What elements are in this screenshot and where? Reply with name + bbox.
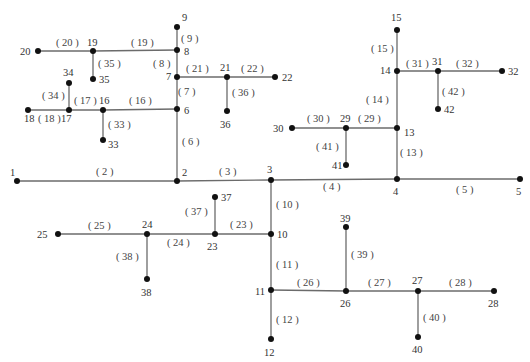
node-label-24: 24 bbox=[142, 219, 153, 230]
edge-label-19: ( 19 ) bbox=[131, 37, 154, 49]
node-21 bbox=[224, 74, 230, 80]
node-label-42: 42 bbox=[444, 104, 455, 115]
edge-label-9: ( 9 ) bbox=[181, 33, 199, 45]
node-label-37: 37 bbox=[221, 192, 232, 203]
node-label-41: 41 bbox=[332, 160, 343, 171]
edge-label-18: ( 18 ) bbox=[38, 113, 61, 125]
node-35 bbox=[90, 76, 96, 82]
node-4 bbox=[394, 176, 400, 182]
edge-label-27: ( 27 ) bbox=[368, 277, 391, 289]
edge-label-11: ( 11 ) bbox=[276, 259, 299, 271]
node-19 bbox=[90, 48, 96, 54]
node-label-19: 19 bbox=[87, 37, 98, 48]
edge-label-36: ( 36 ) bbox=[232, 87, 255, 99]
node-13 bbox=[394, 125, 400, 131]
edge-label-20: ( 20 ) bbox=[56, 37, 79, 49]
node-5 bbox=[517, 176, 523, 182]
node-label-8: 8 bbox=[184, 46, 189, 57]
node-label-35: 35 bbox=[99, 74, 110, 85]
node-label-32: 32 bbox=[508, 66, 519, 77]
edge-8-19 bbox=[93, 50, 177, 51]
node-label-6: 6 bbox=[184, 105, 189, 116]
edge-label-15: ( 15 ) bbox=[371, 43, 394, 55]
node-label-28: 28 bbox=[488, 298, 499, 309]
node-label-27: 27 bbox=[412, 275, 423, 286]
node-7 bbox=[174, 74, 180, 80]
node-label-15: 15 bbox=[391, 12, 402, 23]
node-2 bbox=[174, 178, 180, 184]
node-36 bbox=[224, 108, 230, 114]
node-label-5: 5 bbox=[516, 186, 521, 197]
edge-label-10: ( 10 ) bbox=[276, 199, 299, 211]
node-27 bbox=[415, 288, 421, 294]
edge-label-34: ( 34 ) bbox=[42, 90, 65, 102]
edge-3-4 bbox=[271, 179, 397, 180]
node-32 bbox=[499, 68, 505, 74]
node-label-34: 34 bbox=[63, 67, 74, 78]
node-22 bbox=[272, 74, 278, 80]
node-label-31: 31 bbox=[432, 56, 443, 67]
node-34 bbox=[66, 80, 72, 86]
network-diagram: ( 2 )( 3 )( 4 )( 5 )( 6 )( 7 )( 8 )( 9 )… bbox=[0, 0, 530, 362]
edge-label-2: ( 2 ) bbox=[96, 166, 114, 178]
node-label-17: 17 bbox=[61, 113, 72, 124]
node-14 bbox=[394, 68, 400, 74]
edge-label-42: ( 42 ) bbox=[442, 86, 465, 98]
node-41 bbox=[343, 162, 349, 168]
node-20 bbox=[35, 48, 41, 54]
node-6 bbox=[174, 106, 180, 112]
node-label-25: 25 bbox=[37, 229, 48, 240]
node-31 bbox=[435, 68, 441, 74]
node-label-39: 39 bbox=[340, 213, 351, 224]
node-38 bbox=[144, 276, 150, 282]
node-label-23: 23 bbox=[207, 241, 218, 252]
node-label-10: 10 bbox=[277, 229, 288, 240]
edge-label-13: ( 13 ) bbox=[400, 147, 423, 159]
edges-layer bbox=[17, 27, 520, 339]
edge-label-5: ( 5 ) bbox=[456, 184, 474, 196]
edge-label-33: ( 33 ) bbox=[108, 119, 131, 131]
node-39 bbox=[343, 224, 349, 230]
node-label-9: 9 bbox=[182, 12, 187, 23]
edge-label-17: ( 17 ) bbox=[74, 95, 97, 107]
node-9 bbox=[174, 24, 180, 30]
edge-label-7: ( 7 ) bbox=[178, 86, 196, 98]
node-label-18: 18 bbox=[24, 113, 35, 124]
edge-label-39: ( 39 ) bbox=[351, 249, 374, 261]
node-label-29: 29 bbox=[340, 113, 351, 124]
edge-label-3: ( 3 ) bbox=[219, 166, 237, 178]
node-23 bbox=[212, 231, 218, 237]
node-label-36: 36 bbox=[220, 119, 231, 130]
edge-6-16 bbox=[103, 109, 177, 110]
edge-11-26 bbox=[271, 290, 346, 291]
edge-label-4: ( 4 ) bbox=[323, 181, 341, 193]
node-24 bbox=[144, 231, 150, 237]
node-label-2: 2 bbox=[182, 167, 187, 178]
node-label-40: 40 bbox=[412, 344, 423, 355]
edge-label-38: ( 38 ) bbox=[116, 251, 139, 263]
node-29 bbox=[343, 125, 349, 131]
node-label-38: 38 bbox=[141, 287, 152, 298]
node-label-1: 1 bbox=[10, 167, 15, 178]
edge-label-22: ( 22 ) bbox=[241, 63, 264, 75]
node-label-14: 14 bbox=[380, 65, 391, 76]
node-label-13: 13 bbox=[404, 127, 415, 138]
edge-label-24: ( 24 ) bbox=[167, 237, 190, 249]
node-15 bbox=[394, 27, 400, 33]
node-26 bbox=[343, 288, 349, 294]
node-30 bbox=[289, 125, 295, 131]
node-label-4: 4 bbox=[393, 186, 399, 197]
node-labels-layer: 1234567891011121314151617181920212223242… bbox=[10, 12, 521, 358]
node-label-7: 7 bbox=[166, 71, 171, 82]
edge-label-21: ( 21 ) bbox=[186, 63, 209, 75]
edge-label-12: ( 12 ) bbox=[276, 314, 299, 326]
node-25 bbox=[55, 231, 61, 237]
edge-label-25: ( 25 ) bbox=[88, 220, 111, 232]
node-1 bbox=[14, 178, 20, 184]
node-40 bbox=[415, 334, 421, 340]
node-11 bbox=[268, 287, 274, 293]
node-12 bbox=[268, 336, 274, 342]
node-16 bbox=[100, 107, 106, 113]
nodes-layer bbox=[14, 24, 523, 342]
edge-label-26: ( 26 ) bbox=[297, 277, 320, 289]
